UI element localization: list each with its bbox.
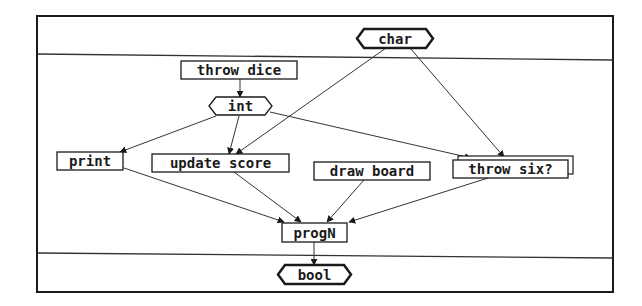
node-label: progN <box>293 225 335 241</box>
edge-throw_six-to-progN <box>349 178 488 222</box>
node-progN[interactable]: progN <box>282 223 347 242</box>
node-label: update score <box>170 155 271 171</box>
node-char[interactable]: char <box>357 29 433 48</box>
lane-divider <box>37 54 613 60</box>
node-print[interactable]: print <box>57 152 123 170</box>
node-label: print <box>69 153 111 169</box>
node-label: throw six? <box>468 161 552 177</box>
node-label: int <box>228 98 253 114</box>
edge-int-to-update_score <box>229 116 239 154</box>
edge-draw_board-to-progN <box>327 180 364 222</box>
node-bool[interactable]: bool <box>278 265 351 284</box>
nodes: charthrow diceintprintupdate scoredraw b… <box>57 29 573 284</box>
edge-print-to-progN <box>124 168 284 222</box>
node-draw-board[interactable]: draw board <box>314 162 430 180</box>
node-throw-dice[interactable]: throw dice <box>181 61 297 79</box>
edge-update_score-to-progN <box>234 172 301 222</box>
dataflow-diagram: charthrow diceintprintupdate scoredraw b… <box>0 0 642 306</box>
node-throw-six[interactable]: throw six? <box>453 156 573 178</box>
node-label: throw dice <box>197 62 281 78</box>
edge-int-to-print <box>120 116 216 152</box>
node-label: draw board <box>330 163 414 179</box>
edge-char-to-throw_six <box>410 48 504 157</box>
node-update-score[interactable]: update score <box>152 154 289 172</box>
node-label: char <box>378 31 412 47</box>
node-int[interactable]: int <box>209 97 272 115</box>
lane-divider <box>37 253 613 258</box>
edge-int-to-throw_six <box>270 112 471 158</box>
node-label: bool <box>298 267 332 283</box>
